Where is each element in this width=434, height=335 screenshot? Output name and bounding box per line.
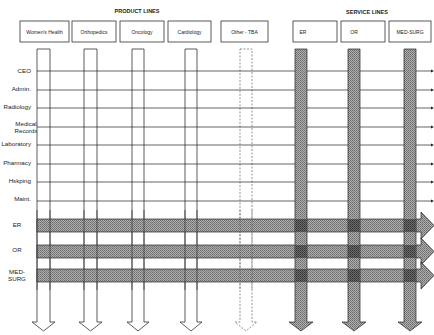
svg-text:OR: OR — [350, 29, 358, 35]
svg-text:ER: ER — [300, 29, 307, 35]
svg-text:MED-SURG: MED-SURG — [396, 29, 423, 35]
arrow-med-surg — [398, 49, 422, 331]
arrow-other-tba — [235, 49, 257, 331]
arrow-womens-health — [32, 49, 55, 331]
header-box-oncology: Oncology — [120, 21, 164, 42]
header-box-cardiology: Cardiology — [168, 21, 211, 42]
arrow-oncology — [127, 49, 149, 331]
product-line-arrows — [32, 49, 202, 331]
product-lines-title: PRODUCT LINES — [115, 8, 160, 14]
svg-text:Maint.: Maint. — [14, 195, 31, 202]
svg-text:Admin.: Admin. — [12, 85, 32, 92]
svg-text:Cardiology: Cardiology — [178, 29, 202, 35]
svg-text:Hskping: Hskping — [9, 177, 32, 184]
svg-text:MED-: MED- — [9, 268, 25, 275]
service-row-bands — [37, 212, 434, 289]
svg-text:ER: ER — [13, 221, 22, 228]
svg-text:SURG: SURG — [8, 275, 26, 282]
header-box-or: OR — [341, 21, 385, 42]
header-box-womens-health: Women's Health — [20, 21, 69, 42]
header-box-orthopedics: Orthopedics — [72, 21, 116, 42]
header-box-med-surg: MED-SURG — [389, 21, 431, 42]
arrow-orthopedics — [79, 49, 102, 331]
svg-text:Radiology: Radiology — [3, 103, 31, 110]
matrix-diagram: PRODUCT LINES SERVICE LINES Women's Heal… — [0, 0, 434, 335]
arrow-cardiology — [180, 49, 202, 331]
svg-text:Women's Health: Women's Health — [26, 29, 63, 35]
svg-text:Medical: Medical — [15, 120, 36, 127]
svg-text:Pharmacy: Pharmacy — [3, 159, 32, 166]
arrow-er — [289, 49, 313, 331]
service-lines-title: SERVICE LINES — [346, 9, 388, 15]
svg-text:Laboratory: Laboratory — [1, 140, 31, 147]
header-box-other-tba: Other - TBA — [221, 21, 268, 42]
header-box-er: ER — [293, 21, 337, 42]
svg-text:CEO: CEO — [18, 67, 32, 74]
row-labels: CEO Admin. Radiology Medical Records Lab… — [1, 67, 37, 282]
svg-text:Records: Records — [14, 127, 37, 134]
svg-text:Orthopedics: Orthopedics — [81, 29, 108, 35]
svg-text:OR: OR — [12, 246, 22, 253]
arrow-or — [342, 49, 366, 331]
service-line-arrows — [289, 49, 422, 331]
svg-text:Oncology: Oncology — [131, 29, 153, 35]
svg-text:Other - TBA: Other - TBA — [231, 29, 258, 35]
